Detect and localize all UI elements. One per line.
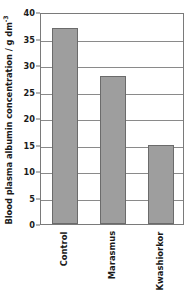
y-axis-tick-label: 0 — [29, 220, 35, 230]
x-axis-label-kwashiorkor: Kwashiorkor — [136, 226, 184, 297]
y-axis-title-main: Blood plasma albumin concentration / g d… — [4, 22, 14, 224]
bar-chart: Blood plasma albumin concentration / g d… — [0, 0, 190, 297]
x-axis-category-labels: ControlMarasmusKwashiorkor — [40, 226, 184, 297]
x-axis-label-text: Control — [59, 231, 69, 266]
y-axis-title: Blood plasma albumin concentration / g d… — [0, 0, 18, 240]
x-axis-label-control: Control — [40, 226, 88, 297]
bar-kwashiorkor — [148, 145, 174, 225]
x-axis-label-text: Kwashiorkor — [155, 231, 165, 290]
y-axis-tick-label: 30 — [24, 61, 35, 71]
bars-group — [41, 14, 183, 224]
plot-area — [40, 13, 184, 225]
y-axis-tick-label: 10 — [24, 167, 35, 177]
y-axis-title-exponent: -3 — [2, 15, 9, 22]
y-axis-tick-label: 20 — [24, 114, 35, 124]
bar-control — [52, 28, 78, 224]
y-axis-tick-label: 35 — [24, 35, 35, 45]
y-axis-tick-label: 40 — [24, 8, 35, 18]
y-axis-title-text: Blood plasma albumin concentration / g d… — [4, 15, 14, 224]
y-axis-tick-label: 25 — [24, 88, 35, 98]
y-axis-tick-labels: 0510152025303540 — [17, 13, 35, 225]
x-axis-label-text: Marasmus — [107, 231, 117, 279]
x-axis-label-marasmus: Marasmus — [88, 226, 136, 297]
y-axis-tick-label: 15 — [24, 141, 35, 151]
y-axis-tick-label: 5 — [29, 194, 35, 204]
bar-marasmus — [100, 76, 126, 224]
